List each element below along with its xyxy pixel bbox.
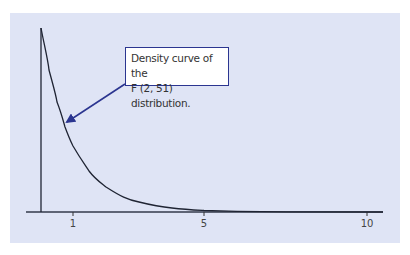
annotation-callout: Density curve of the F (2, 51) distribut… — [125, 47, 229, 86]
density-chart — [0, 0, 410, 255]
tick-label-10: 10 — [361, 218, 374, 229]
tick-label-1: 1 — [70, 218, 76, 229]
callout-arrow — [67, 84, 125, 122]
tick-label-5: 5 — [201, 218, 207, 229]
callout-line-2: F (2, 51) distribution. — [131, 81, 228, 111]
callout-line-1: Density curve of the — [131, 51, 228, 81]
